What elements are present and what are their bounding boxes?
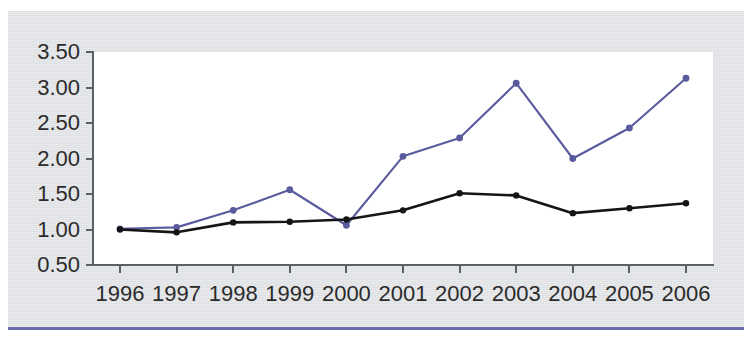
x-axis-tick	[685, 265, 687, 273]
y-axis-tick	[86, 87, 93, 89]
x-axis-tick	[572, 265, 574, 273]
x-axis-tick	[515, 265, 517, 273]
x-axis-tick	[289, 265, 291, 273]
x-axis-tick	[459, 265, 461, 273]
x-axis-tick	[628, 265, 630, 273]
x-axis-tick-label: 2006	[651, 283, 721, 305]
x-axis-tick	[232, 265, 234, 273]
y-axis-tick-label: 2.50	[6, 112, 80, 134]
x-axis-tick	[119, 265, 121, 273]
y-axis-tick-label: 3.00	[6, 77, 80, 99]
figure-container: 3.503.002.502.001.501.000.50 19961997199…	[0, 0, 752, 341]
y-axis-tick-label: 1.00	[6, 219, 80, 241]
y-axis-tick-label: 0.50	[6, 254, 80, 276]
y-axis-tick	[86, 229, 93, 231]
y-axis-tick-label: 2.00	[6, 148, 80, 170]
y-axis-tick	[86, 158, 93, 160]
y-axis-tick-label: 1.50	[6, 183, 80, 205]
y-axis-tick	[86, 122, 93, 124]
x-axis-tick	[176, 265, 178, 273]
y-axis-tick	[86, 51, 93, 53]
x-axis-tick	[402, 265, 404, 273]
plot-area	[93, 52, 713, 265]
y-axis-tick-label: 3.50	[6, 41, 80, 63]
bottom-divider-rule	[8, 327, 744, 330]
y-axis-tick	[86, 264, 93, 266]
x-axis-tick	[345, 265, 347, 273]
y-axis-tick	[86, 193, 93, 195]
